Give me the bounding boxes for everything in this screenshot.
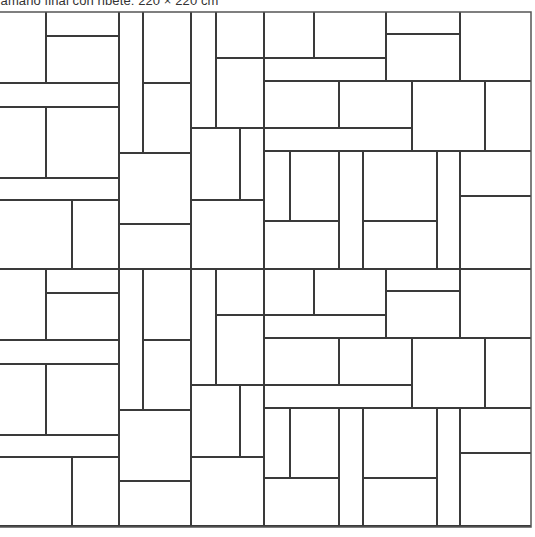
quilt-layout-diagram [0,0,535,537]
quilt-seam-lines [0,12,531,526]
